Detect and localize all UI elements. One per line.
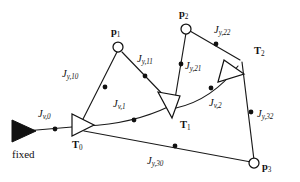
factor-dot-Jy11: [143, 74, 148, 79]
factor-dot-Jy32: [249, 110, 254, 115]
diagram-canvas: fixed p1 p2 p3 T0 T1 T2 Jv,0: [0, 0, 300, 182]
factor-label-Jv2: Jv,2: [209, 97, 222, 110]
frame-T2-label: T2: [254, 45, 265, 58]
edge-T0-p3: [84, 131, 251, 162]
frames-group: [72, 60, 244, 136]
labels-group: fixed p1 p2 p3 T0 T1 T2 Jv,0: [12, 8, 274, 174]
factor-graph-figure: fixed p1 p2 p3 T0 T1 T2 Jv,0: [0, 0, 300, 182]
factor-label-Jy32: Jy,32: [257, 108, 274, 121]
factor-dot-Jy30: [173, 144, 178, 149]
frame-T0-label: T0: [72, 139, 83, 152]
fixed-anchor-icon: [12, 120, 36, 142]
point-p1-icon: [113, 42, 123, 52]
factor-dot-Jy22: [214, 42, 219, 47]
point-p3-icon: [249, 158, 259, 168]
factor-label-Jy11: Jy,11: [137, 53, 153, 66]
factor-dot-Jv0: [53, 127, 58, 132]
points-group: [113, 24, 259, 168]
point-p3-label: p3: [262, 161, 272, 174]
edge-T0-T1: [86, 106, 170, 126]
edge-T0-p1: [80, 50, 118, 125]
factor-label-Jv1: Jv,1: [113, 98, 126, 111]
frame-T1-icon: [158, 92, 180, 118]
factor-label-Jy10: Jy,10: [62, 68, 79, 81]
edges-group: [25, 31, 254, 162]
factor-label-Jy22: Jy,22: [214, 24, 231, 37]
factor-dots-group: [53, 42, 254, 149]
point-p1-label: p1: [111, 26, 121, 39]
factor-label-Jy30: Jy,30: [147, 155, 164, 168]
fixed-label: fixed: [12, 148, 35, 160]
anchor-group: [12, 120, 36, 142]
point-p2-icon: [181, 24, 191, 34]
factor-dot-Jy10: [103, 85, 108, 90]
factor-dot-Jy21: [179, 62, 184, 67]
factor-label-Jy21: Jy,21: [185, 60, 201, 73]
factor-dot-Jv1: [132, 118, 137, 123]
frame-T1-label: T1: [180, 119, 191, 132]
factor-dot-Jv2: [209, 86, 214, 91]
frame-T2-icon: [218, 60, 244, 82]
point-p2-label: p2: [179, 8, 189, 21]
factor-label-Jv0: Jv,0: [38, 108, 51, 121]
